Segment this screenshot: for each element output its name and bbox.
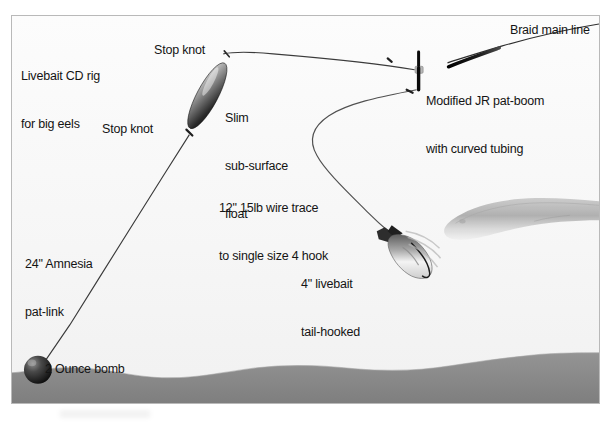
stop-knot-upper-label: Stop knot xyxy=(154,43,205,59)
livebait-label-line-1: 4" livebait xyxy=(301,276,360,292)
diagram-page: Livebait CD rig for big eels Stop knot S… xyxy=(0,0,612,423)
wire-trace-label-line-1: 12" 15lb wire trace xyxy=(219,200,328,216)
rig-title-line-1: Livebait CD rig xyxy=(21,68,100,84)
bomb-label: 2 Ounce bomb xyxy=(45,362,125,378)
rig-title: Livebait CD rig for big eels xyxy=(21,36,100,164)
diagram-frame: Livebait CD rig for big eels Stop knot S… xyxy=(11,15,600,404)
amnesia-label-line-2: pat-link xyxy=(25,304,93,320)
pat-boom-label-line-2: with curved tubing xyxy=(426,141,544,157)
braid-main-line-label: Braid main line xyxy=(510,23,590,39)
rig-title-line-2: for big eels xyxy=(21,116,100,132)
pat-boom-label: Modified JR pat-boom with curved tubing xyxy=(426,61,544,189)
stop-knot-lower-label: Stop knot xyxy=(102,122,153,138)
float-label-line-1: Slim xyxy=(225,110,288,126)
pat-boom-label-line-1: Modified JR pat-boom xyxy=(426,93,544,109)
amnesia-label-line-1: 24" Amnesia xyxy=(25,256,93,272)
livebait-label-line-2: tail-hooked xyxy=(301,324,360,340)
amnesia-pat-link-label: 24" Amnesia pat-link xyxy=(25,224,93,352)
scan-artifact xyxy=(60,410,150,418)
livebait-label: 4" livebait tail-hooked xyxy=(301,244,360,372)
